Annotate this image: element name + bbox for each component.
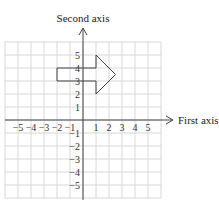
y-tick-label: −2 — [69, 141, 80, 152]
x-tick-label: −4 — [26, 122, 37, 133]
x-axis-label: First axis — [178, 114, 219, 126]
x-tick-label: 5 — [146, 122, 151, 133]
coordinate-diagram: −5−4−3−2−11234554321−1−2−3−4−5 First axi… — [0, 0, 219, 201]
x-tick-label: −2 — [52, 122, 63, 133]
x-tick-label: 2 — [107, 122, 112, 133]
y-tick-label: 2 — [75, 89, 80, 100]
x-tick-label: −5 — [13, 122, 24, 133]
x-tick-label: 3 — [120, 122, 125, 133]
x-tick-label: 1 — [94, 122, 99, 133]
arrow-shape — [57, 55, 116, 94]
x-tick-label: −3 — [39, 122, 50, 133]
y-tick-label: −5 — [69, 180, 80, 191]
y-axis-label: Second axis — [57, 12, 110, 24]
y-tick-label: −4 — [69, 167, 80, 178]
y-tick-label: 1 — [75, 102, 80, 113]
coordinate-plane: −5−4−3−2−11234554321−1−2−3−4−5 First axi… — [0, 0, 219, 201]
y-tick-label: 5 — [75, 50, 80, 61]
y-tick-label: −1 — [69, 128, 80, 139]
x-tick-label: 4 — [133, 122, 138, 133]
y-tick-label: −3 — [69, 154, 80, 165]
